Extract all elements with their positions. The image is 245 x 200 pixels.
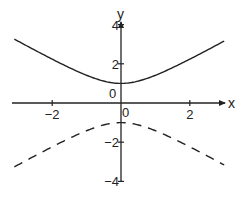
- hyperbola-plot: −2242−2−4 x y 0 0: [0, 0, 245, 200]
- y-tick-label: −4: [104, 174, 119, 189]
- lower-branch-curve: [14, 123, 224, 167]
- x-tick-label: −2: [45, 107, 60, 122]
- origin-label-lower: 0: [122, 105, 129, 120]
- y-tick-label: −2: [104, 135, 119, 150]
- y-tick-label: 2: [112, 57, 119, 72]
- y-axis-label: y: [117, 6, 124, 22]
- x-tick-label: 2: [186, 107, 193, 122]
- x-axis-label: x: [228, 95, 235, 111]
- origin-label-upper: 0: [109, 86, 116, 101]
- upper-branch-curve: [14, 39, 224, 83]
